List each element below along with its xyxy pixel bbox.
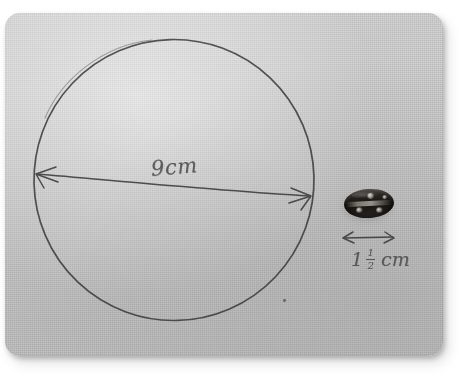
bead-width-whole-number: 1 xyxy=(351,248,363,270)
diagram-scene: 9cm 1 1 2 cm xyxy=(0,0,459,378)
bead-highlight-band xyxy=(346,200,392,207)
bead-width-unit: cm xyxy=(381,248,410,270)
stray-pencil-dot xyxy=(283,299,286,302)
diameter-label: 9cm xyxy=(150,153,198,181)
bead-speckle xyxy=(383,195,387,199)
fraction-denominator: 2 xyxy=(367,261,373,272)
bead-speckle xyxy=(376,207,382,212)
bead-width-label: 1 1 2 cm xyxy=(351,247,410,270)
bead-width-fraction: 1 2 xyxy=(366,248,375,271)
bead-object xyxy=(344,189,394,219)
fraction-numerator: 1 xyxy=(367,248,373,259)
bead-speckle xyxy=(356,207,362,212)
bead-gloss xyxy=(351,191,377,199)
bead-speckle xyxy=(367,193,373,199)
grey-paper-card xyxy=(5,13,443,356)
